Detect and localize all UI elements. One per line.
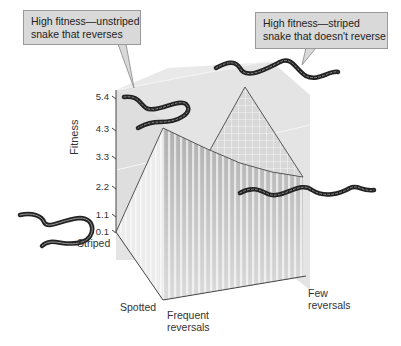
callout-left-line2: snake that reverses bbox=[31, 28, 133, 41]
y-tick: 0.1 bbox=[87, 226, 109, 237]
y-tick: 2.2 bbox=[87, 181, 109, 192]
behavior-axis-far-line2: reversals bbox=[308, 299, 351, 311]
y-tick: 3.3 bbox=[87, 151, 109, 162]
y-axis-label: Fitness bbox=[68, 120, 80, 155]
callout-right: High fitness—striped snake that doesn't … bbox=[255, 12, 388, 49]
behavior-axis-far-label: Few reversals bbox=[308, 287, 351, 311]
callout-right-line2: snake that doesn't reverse bbox=[263, 30, 380, 43]
behavior-axis-near-line1: Frequent bbox=[167, 309, 210, 321]
y-tick: 5.4 bbox=[87, 91, 109, 102]
behavior-axis-near-line2: reversals bbox=[167, 321, 210, 333]
y-tick: 4.3 bbox=[87, 123, 109, 134]
behavior-axis-far-line1: Few bbox=[308, 287, 351, 299]
callout-right-pointer bbox=[302, 48, 316, 65]
callout-left-pointer bbox=[118, 44, 134, 88]
y-tick: 1.1 bbox=[87, 209, 109, 220]
behavior-axis-near-label: Frequent reversals bbox=[167, 309, 210, 333]
pattern-axis-near-label: Striped bbox=[77, 237, 110, 249]
callout-right-line1: High fitness—striped bbox=[263, 17, 380, 30]
callout-left: High fitness—unstriped snake that revers… bbox=[23, 10, 141, 45]
pattern-axis-far-label: Spotted bbox=[120, 301, 156, 313]
callout-left-line1: High fitness—unstriped bbox=[31, 15, 133, 28]
